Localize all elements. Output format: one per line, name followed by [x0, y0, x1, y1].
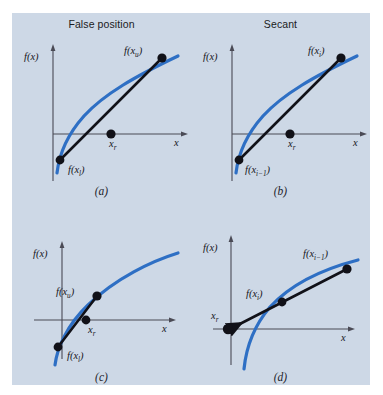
- y-axis-label: f(x): [24, 52, 39, 63]
- subplot-a-graphic: [12, 13, 191, 199]
- subplot-b: Secant f(x) x f(xi) f(xi−1) xr (b): [191, 13, 370, 199]
- x-axis-arrow: [360, 132, 367, 137]
- function-curve: [55, 253, 178, 365]
- y-axis-arrow: [60, 241, 65, 248]
- x-axis-label: x: [353, 138, 358, 149]
- x-axis-label: x: [174, 138, 179, 149]
- root-point-marker: [223, 324, 233, 334]
- y-axis-label: f(x): [203, 52, 218, 63]
- subplot-c-caption: (c): [12, 371, 191, 383]
- function-curve: [57, 56, 178, 173]
- subplot-b-caption: (b): [191, 185, 370, 197]
- x-axis-arrow: [348, 327, 355, 332]
- x-axis-arrow: [169, 318, 176, 323]
- subplot-a: False position f(x) x f(xu) f(xl) xr (a): [12, 13, 191, 199]
- y-axis-label: f(x): [33, 249, 48, 260]
- lower-point-marker: [235, 156, 244, 165]
- subplot-d: f(x) x f(xi−1) f(xi) xr (d): [191, 199, 370, 385]
- subplot-c-graphic: [12, 199, 191, 385]
- x-axis-arrow: [181, 132, 188, 137]
- root-label: xr: [288, 139, 295, 152]
- subplot-b-graphic: [191, 13, 370, 199]
- upper-point-marker: [342, 264, 351, 273]
- x-axis-label: x: [162, 324, 167, 335]
- upper-point-label: f(xu): [124, 46, 142, 59]
- lower-point-label: f(xi−1): [245, 165, 270, 178]
- upper-point-label: f(xu): [56, 287, 74, 300]
- upper-point-marker: [336, 53, 345, 62]
- upper-point-marker: [92, 291, 101, 300]
- figure-panel: False position f(x) x f(xu) f(xl) xr (a)…: [12, 13, 370, 385]
- lower-point-label: f(xl): [67, 351, 84, 364]
- lower-point-marker: [56, 156, 65, 165]
- root-label: xr: [109, 139, 116, 152]
- root-label: xr: [88, 325, 95, 338]
- lower-point-marker: [278, 298, 287, 307]
- y-axis-label: f(x): [203, 243, 218, 254]
- upper-point-label: f(xi): [308, 46, 325, 59]
- y-axis-arrow: [51, 44, 56, 51]
- lower-point-marker: [54, 343, 63, 352]
- lower-point-label: f(xi): [246, 289, 263, 302]
- y-axis-arrow: [230, 44, 235, 51]
- lower-point-label: f(xl): [68, 165, 85, 178]
- chord-line: [58, 296, 97, 347]
- subplot-c: f(x) x f(xu) f(xl) xr (c): [12, 199, 191, 385]
- x-axis-label: x: [341, 333, 346, 344]
- upper-point-label: f(xi−1): [303, 249, 328, 262]
- subplot-a-caption: (a): [12, 185, 191, 197]
- subplot-d-graphic: [191, 199, 370, 385]
- subplot-d-caption: (d): [191, 371, 370, 383]
- function-curve: [236, 56, 357, 173]
- y-axis-arrow: [229, 235, 234, 242]
- upper-point-marker: [157, 53, 166, 62]
- root-label: xr: [211, 311, 218, 324]
